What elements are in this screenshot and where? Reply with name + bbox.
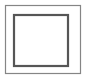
figure-canvas — [0, 0, 88, 81]
inner-rectangle — [14, 15, 68, 66]
nested-rectangles-symbol — [0, 0, 88, 81]
